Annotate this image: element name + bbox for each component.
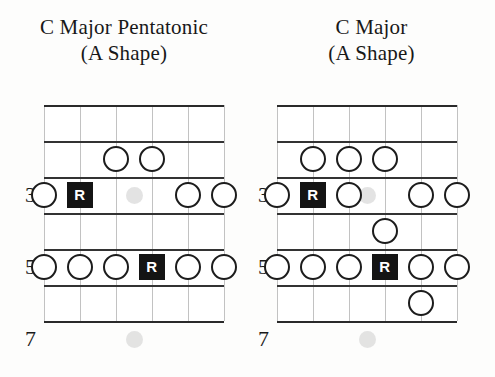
diagram-title: C Major(A Shape) — [248, 14, 495, 66]
fret-line-4 — [44, 249, 224, 251]
root-note-marker-fret5-string4: R — [139, 254, 165, 280]
fret-line-3 — [44, 213, 224, 215]
fret-line-5 — [44, 285, 224, 287]
note-marker-fret5-string5 — [408, 254, 434, 280]
fret-line-2 — [44, 177, 224, 179]
note-marker-fret2-string3 — [103, 146, 129, 172]
diagram-title-line2: (A Shape) — [0, 40, 248, 66]
note-marker-fret4-string4 — [372, 218, 398, 244]
note-marker-fret3-string5 — [175, 182, 201, 208]
fret-line-5 — [277, 285, 457, 287]
fretboard-grid-c-major — [277, 105, 457, 321]
note-marker-fret3-string6 — [211, 182, 237, 208]
root-note-marker-fret3-string2: R — [300, 182, 326, 208]
fretboard-inlay-dot-fret-7 — [359, 331, 376, 348]
diagram-title-line1: C Major Pentatonic — [40, 15, 208, 39]
fret-line-4 — [277, 249, 457, 251]
note-marker-fret5-string6 — [444, 254, 470, 280]
fret-number-label-7: 7 — [14, 328, 36, 350]
note-marker-fret5-string2 — [300, 254, 326, 280]
string-line-6 — [224, 105, 225, 321]
fretboard-inlay-dot-fret-3 — [126, 187, 143, 204]
note-marker-fret5-string6 — [211, 254, 237, 280]
note-marker-fret5-string5 — [175, 254, 201, 280]
note-marker-fret5-string1 — [264, 254, 290, 280]
note-marker-fret3-string6 — [444, 182, 470, 208]
note-marker-fret5-string2 — [67, 254, 93, 280]
fret-line-2 — [277, 177, 457, 179]
diagram-title-line2: (A Shape) — [248, 40, 495, 66]
fret-line-6 — [44, 321, 224, 323]
note-marker-fret5-string1 — [31, 254, 57, 280]
note-marker-fret2-string4 — [372, 146, 398, 172]
fretboard-diagram-page: C Major Pentatonic(A Shape)357RRC Major(… — [0, 0, 495, 377]
note-marker-fret2-string2 — [300, 146, 326, 172]
string-line-6 — [457, 105, 458, 321]
fret-line-0 — [44, 105, 224, 107]
diagram-title: C Major Pentatonic(A Shape) — [0, 14, 248, 66]
fret-number-label-7: 7 — [247, 328, 269, 350]
diagram-title-line1: C Major — [336, 15, 408, 39]
root-note-marker-fret3-string2: R — [67, 182, 93, 208]
fretboard-inlay-dot-fret-7 — [126, 331, 143, 348]
fret-line-3 — [277, 213, 457, 215]
fretboard-grid-c-major-pentatonic — [44, 105, 224, 321]
note-marker-fret3-string1 — [264, 182, 290, 208]
note-marker-fret3-string5 — [408, 182, 434, 208]
note-marker-fret3-string1 — [31, 182, 57, 208]
fret-line-1 — [44, 141, 224, 143]
note-marker-fret5-string3 — [103, 254, 129, 280]
root-note-marker-fret5-string4: R — [372, 254, 398, 280]
fret-line-1 — [277, 141, 457, 143]
fret-line-6 — [277, 321, 457, 323]
note-marker-fret5-string3 — [336, 254, 362, 280]
fret-line-0 — [277, 105, 457, 107]
note-marker-fret2-string3 — [336, 146, 362, 172]
note-marker-fret3-string3 — [336, 182, 362, 208]
note-marker-fret2-string4 — [139, 146, 165, 172]
note-marker-fret6-string5 — [408, 290, 434, 316]
